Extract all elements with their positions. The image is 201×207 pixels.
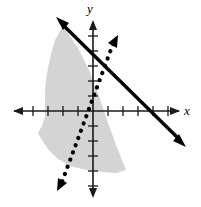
graph-figure: y x	[0, 0, 201, 207]
y-axis-arrow-down	[89, 188, 97, 198]
x-axis-arrow-left	[13, 107, 23, 115]
shaded-solution-region	[38, 26, 126, 173]
y-axis-label: y	[87, 2, 93, 15]
x-axis-arrow-right	[170, 107, 180, 115]
y-axis-arrow-up	[89, 20, 97, 30]
graph-canvas	[0, 0, 201, 207]
x-axis-label: x	[184, 104, 190, 117]
